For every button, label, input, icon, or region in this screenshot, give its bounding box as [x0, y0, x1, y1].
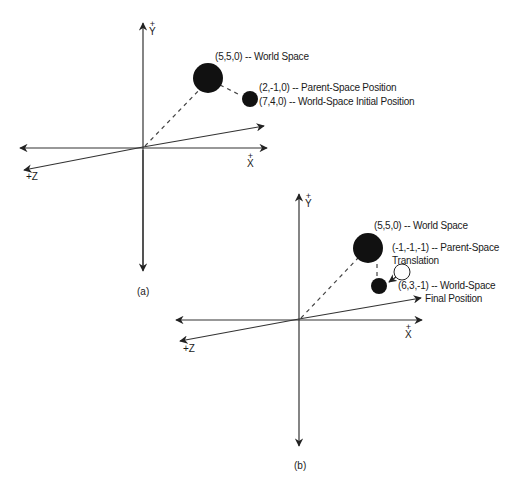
- z-axis-label-a: +Z: [26, 171, 38, 183]
- y-letter-a: Y: [149, 26, 156, 37]
- dashed-link-origin-parent-a: [145, 85, 204, 146]
- translation-label-line2-b: Translation: [392, 255, 439, 267]
- final-label-b: (6,3,-1) -- World-Space: [398, 280, 495, 292]
- z-axis-a: [24, 147, 143, 170]
- x-letter-b: X: [405, 329, 412, 340]
- caption-a: (a): [137, 286, 149, 297]
- y-axis-label-b: + Y: [305, 192, 312, 208]
- x-letter-a: X: [247, 158, 254, 169]
- z-axis-label-b: +Z: [183, 343, 195, 355]
- dashed-link-origin-parent-b: [301, 258, 358, 318]
- child-object-b: [371, 278, 387, 294]
- parent-object-a: [193, 63, 223, 93]
- y-axis-label-a: + Y: [149, 20, 156, 36]
- x-axis-label-b: + X: [405, 323, 412, 339]
- final-label-line2-b: Final Position: [425, 293, 482, 305]
- dashed-link-parent-child-a: [220, 85, 240, 95]
- parent-label-b: (5,5,0) -- World Space: [374, 220, 468, 232]
- child-label-world-space-a: (7,4,0) -- World-Space Initial Position: [259, 96, 414, 108]
- child-object-a: [242, 91, 258, 107]
- parent-label-a: (5,5,0) -- World Space: [215, 51, 309, 63]
- translation-label-b: (-1,-1,-1) -- Parent-Space: [392, 242, 499, 254]
- child-label-parent-space-a: (2,-1,0) -- Parent-Space Position: [259, 82, 396, 94]
- z-axis-b: [180, 319, 299, 341]
- x-axis-label-a: + X: [247, 152, 254, 168]
- parent-object-b: [353, 233, 383, 263]
- caption-b: (b): [294, 460, 306, 471]
- y-letter-b: Y: [305, 198, 312, 209]
- translation-arrow-b: [389, 277, 396, 282]
